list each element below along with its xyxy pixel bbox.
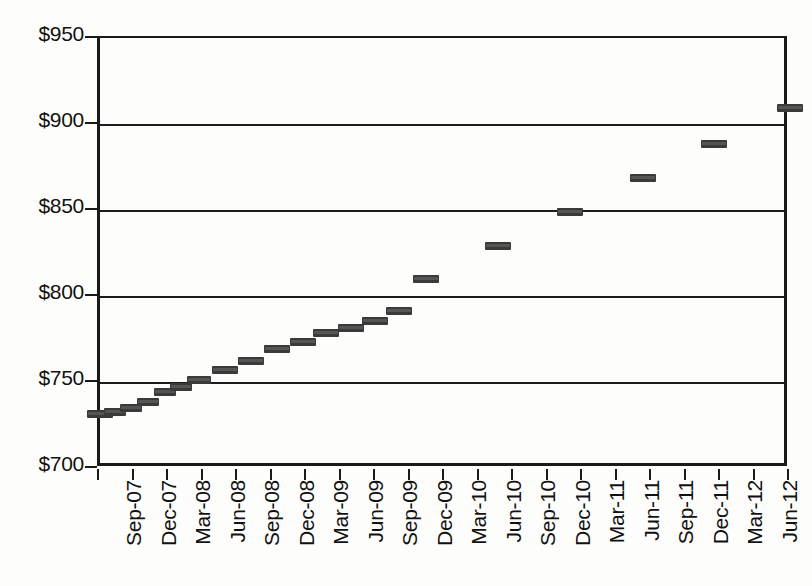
x-axis-label: Dec-08 xyxy=(295,480,319,546)
x-tick xyxy=(615,469,617,480)
x-tick xyxy=(442,469,444,480)
data-point-marker xyxy=(290,338,316,346)
gridline-800 xyxy=(100,296,784,298)
y-axis-label: $800 xyxy=(0,280,84,304)
x-tick xyxy=(270,469,272,480)
y-tick-750 xyxy=(85,380,97,382)
data-point-marker xyxy=(485,242,511,250)
data-point-marker xyxy=(170,383,192,391)
x-axis-label: Jun-11 xyxy=(640,480,664,541)
data-point-marker xyxy=(777,104,803,112)
x-axis-label: Mar-09 xyxy=(329,480,353,545)
x-tick xyxy=(97,469,99,480)
x-axis-label: Mar-08 xyxy=(191,480,215,545)
x-axis-label: Sep-11 xyxy=(674,480,698,544)
y-axis-label: $700 xyxy=(0,452,84,476)
x-tick xyxy=(201,469,203,480)
x-axis-label: Dec-10 xyxy=(571,480,595,546)
data-point-marker xyxy=(362,317,388,325)
x-tick xyxy=(408,469,410,480)
data-point-marker xyxy=(630,174,656,182)
x-tick xyxy=(339,469,341,480)
plot-area xyxy=(97,36,787,466)
x-axis-label: Sep-08 xyxy=(260,480,284,546)
x-axis-label: Mar-12 xyxy=(743,480,767,545)
x-tick xyxy=(580,469,582,480)
x-tick xyxy=(132,469,134,480)
y-tick-800 xyxy=(85,294,97,296)
x-tick xyxy=(787,469,789,480)
data-point-marker xyxy=(137,398,159,406)
x-axis-label: Jun-08 xyxy=(226,480,250,542)
data-point-marker xyxy=(313,329,339,337)
x-tick xyxy=(718,469,720,480)
x-axis-label: Jun-10 xyxy=(502,480,526,542)
x-axis-label: Dec-11 xyxy=(709,480,733,544)
x-axis-label: Dec-09 xyxy=(433,480,457,546)
y-tick-850 xyxy=(85,208,97,210)
x-axis-label: Mar-11 xyxy=(605,480,629,543)
data-point-marker xyxy=(557,208,583,216)
x-axis-label: Dec-07 xyxy=(157,480,181,546)
data-point-marker xyxy=(701,140,727,148)
chart-figure: $700$750$800$850$900$950 Sep-07Dec-07Mar… xyxy=(0,0,812,586)
data-point-marker xyxy=(386,307,412,315)
x-tick xyxy=(753,469,755,480)
x-tick xyxy=(546,469,548,480)
data-point-marker xyxy=(413,275,439,283)
y-tick-700 xyxy=(85,466,97,468)
x-axis-label: Jun-09 xyxy=(364,480,388,542)
data-point-marker xyxy=(338,324,364,332)
x-axis-label: Sep-07 xyxy=(122,480,146,546)
x-tick xyxy=(477,469,479,480)
data-point-marker xyxy=(238,357,264,365)
y-tick-900 xyxy=(85,122,97,124)
x-tick xyxy=(373,469,375,480)
x-axis-labels: Sep-07Dec-07Mar-08Jun-08Sep-08Dec-08Mar-… xyxy=(97,480,787,586)
y-axis-label: $850 xyxy=(0,194,84,218)
x-tick xyxy=(684,469,686,480)
y-tick-950 xyxy=(85,36,97,38)
x-tick xyxy=(304,469,306,480)
x-tick xyxy=(649,469,651,480)
x-tick xyxy=(511,469,513,480)
x-axis-label: Mar-10 xyxy=(467,480,491,545)
data-point-marker xyxy=(264,345,290,353)
data-point-marker xyxy=(187,376,211,384)
x-tick xyxy=(166,469,168,480)
data-point-marker xyxy=(212,366,238,374)
y-axis-labels: $700$750$800$850$900$950 xyxy=(0,0,84,586)
gridline-900 xyxy=(100,124,784,126)
x-axis-label: Sep-09 xyxy=(398,480,422,546)
y-axis-label: $750 xyxy=(0,366,84,390)
y-axis-label: $900 xyxy=(0,108,84,132)
y-axis-label: $950 xyxy=(0,22,84,46)
x-axis-label: Jun-12 xyxy=(778,480,802,542)
x-tick xyxy=(235,469,237,480)
gridline-850 xyxy=(100,210,784,212)
x-axis-label: Sep-10 xyxy=(536,480,560,546)
